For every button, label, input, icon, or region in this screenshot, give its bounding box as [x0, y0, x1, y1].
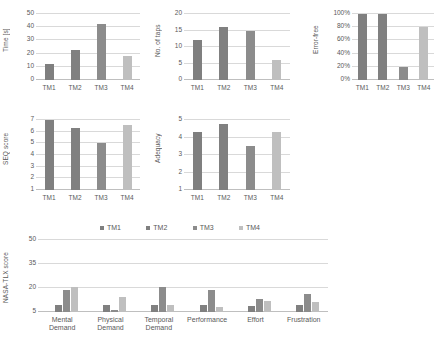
- chart-nasatlx-plot: 5203550: [38, 240, 328, 312]
- chart-adequacy-bars: [184, 120, 290, 190]
- x-axis-tick-label-line: Physical: [86, 316, 134, 324]
- bar-tm1: [45, 120, 54, 190]
- bar-tm4: [123, 125, 132, 190]
- chart-time-plot: 01020304050: [36, 14, 140, 80]
- bar-slot: [36, 120, 62, 190]
- bar-group: [38, 240, 86, 312]
- x-axis-tick-label: TM3: [393, 84, 414, 91]
- y-axis-tick-label: 100%: [333, 10, 350, 17]
- bar-tm3: [256, 299, 263, 312]
- x-axis-tick-label: TM1: [36, 194, 62, 201]
- bar-tm2: [248, 306, 255, 312]
- y-axis-tick-label: 40%: [337, 49, 350, 56]
- bar-slot: [211, 120, 238, 190]
- x-axis-tick-label: TM3: [88, 84, 114, 91]
- y-axis-tick-label: 20: [29, 284, 36, 291]
- legend-item-tm1[interactable]: TM1: [100, 224, 121, 231]
- y-axis-tick-label: 2: [178, 168, 182, 175]
- bar-group: [135, 240, 183, 312]
- y-axis-tick-label: 6: [30, 127, 34, 134]
- x-axis-tick-label-line: Effort: [231, 316, 279, 324]
- bar-tm4: [272, 132, 281, 190]
- chart-seq: SEQ score 1234567 TM1TM2TM3TM4: [0, 112, 150, 212]
- chart-time-ylabel: Time [s]: [2, 14, 9, 66]
- bar-tm1: [358, 14, 367, 80]
- x-axis-tick-label-line: Frustration: [280, 316, 328, 324]
- x-axis-tick-label: MentalDemand: [38, 316, 86, 333]
- bar-slot: [184, 14, 211, 80]
- x-axis-tick-label: TM1: [184, 84, 211, 91]
- bar-slot: [264, 120, 291, 190]
- bar-slot: [114, 14, 140, 80]
- chart-nasatlx-legend: TM1TM2TM3TM4: [100, 224, 260, 231]
- bar-tm3: [97, 143, 106, 190]
- bar-tm2: [296, 305, 303, 312]
- x-axis-tick-label: TM3: [237, 194, 264, 201]
- bar-tm1: [45, 64, 54, 80]
- bar-slot: [36, 14, 62, 80]
- bar-tm4: [216, 307, 223, 312]
- x-axis-tick-label: TM2: [211, 194, 238, 201]
- legend-item-tm3[interactable]: TM3: [193, 224, 214, 231]
- bar-tm2: [103, 305, 110, 312]
- bar-tm4: [167, 305, 174, 312]
- legend-swatch-icon: [146, 226, 150, 230]
- bar-slot: [414, 14, 435, 80]
- bar-tm3: [246, 31, 255, 81]
- y-axis-tick-label: 2: [30, 174, 34, 181]
- bar-tm3: [304, 294, 311, 312]
- legend-item-tm4[interactable]: TM4: [239, 224, 260, 231]
- legend-swatch-icon: [239, 226, 243, 230]
- y-axis-tick-label: 10: [175, 43, 182, 50]
- y-axis-tick-label: 3: [30, 162, 34, 169]
- chart-nasatlx-xticks: MentalDemandPhysicalDemandTemporalDemand…: [38, 316, 328, 333]
- legend-label: TM3: [200, 224, 214, 231]
- bar-tm1: [193, 40, 202, 80]
- chart-errorfree-ylabel: Error-free: [312, 12, 319, 68]
- bar-slot: [62, 120, 88, 190]
- bar-tm2: [200, 305, 207, 312]
- bar-slot: [237, 14, 264, 80]
- x-axis-tick-label-line: Demand: [38, 324, 86, 332]
- y-axis-tick-label: 3: [178, 151, 182, 158]
- x-axis-tick-label: TM1: [352, 84, 373, 91]
- y-axis-tick-label: 60%: [337, 36, 350, 43]
- y-axis-tick-label: 5: [178, 116, 182, 123]
- chart-nasatlx-ylabel: NASA-TLX score: [2, 240, 9, 316]
- bar-tm4: [312, 302, 319, 312]
- bar-group: [183, 240, 231, 312]
- bar-tm4: [264, 301, 271, 312]
- bar-slot: [264, 14, 291, 80]
- legend-swatch-icon: [193, 226, 197, 230]
- bar-tm3: [159, 287, 166, 312]
- legend-label: TM4: [246, 224, 260, 231]
- y-axis-tick-label: 5: [32, 308, 36, 315]
- x-axis-tick-label: TM3: [88, 194, 114, 201]
- y-axis-tick-label: 0%: [341, 76, 350, 83]
- chart-time: Time [s] 01020304050 TM1TM2TM3TM4: [0, 4, 150, 104]
- x-axis-tick-label: TM2: [211, 84, 238, 91]
- bar-slot: [62, 14, 88, 80]
- bar-tm3: [399, 67, 408, 80]
- bar-tm4: [419, 27, 428, 80]
- legend-label: TM2: [153, 224, 167, 231]
- legend-swatch-icon: [100, 226, 104, 230]
- x-axis-tick-label: TM2: [373, 84, 394, 91]
- y-axis-tick-label: 30: [27, 36, 34, 43]
- chart-adequacy-plot: 12345: [184, 120, 290, 190]
- chart-taps-plot: 05101520: [184, 14, 290, 80]
- y-axis-tick-label: 20: [27, 49, 34, 56]
- chart-errorfree: Error-free 0%20%40%60%80%100% TM1TM2TM3T…: [312, 4, 440, 104]
- y-axis-tick-label: 50: [29, 236, 36, 243]
- legend-item-tm2[interactable]: TM2: [146, 224, 167, 231]
- bar-tm2: [378, 14, 387, 80]
- y-axis-tick-label: 7: [30, 116, 34, 123]
- x-axis-tick-label-line: Temporal: [135, 316, 183, 324]
- y-axis-tick-label: 50: [27, 10, 34, 17]
- x-axis-tick-label: TM4: [264, 194, 291, 201]
- bar-slot: [114, 120, 140, 190]
- y-axis-tick-label: 10: [27, 63, 34, 70]
- x-axis-tick-label-line: Mental: [38, 316, 86, 324]
- bar-tm3: [208, 290, 215, 312]
- y-axis-tick-label: 0: [178, 76, 182, 83]
